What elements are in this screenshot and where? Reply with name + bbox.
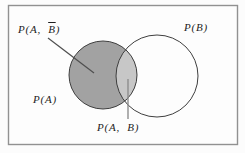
label-p-b: P(B) [184, 21, 208, 34]
label-p-a-bbar-prefix: P(A, [18, 23, 48, 35]
label-p-a: P(A) [33, 93, 57, 106]
label-p-a-b: P(A, B) [97, 121, 139, 134]
label-p-a-bbar: P(A, B) [18, 23, 60, 36]
label-p-a-bbar-barred-b: B [48, 23, 56, 35]
venn-diagram-figure: P(A, B) P(B) P(A) P(A, B) [0, 0, 245, 153]
label-p-a-bbar-suffix: ) [56, 23, 60, 35]
